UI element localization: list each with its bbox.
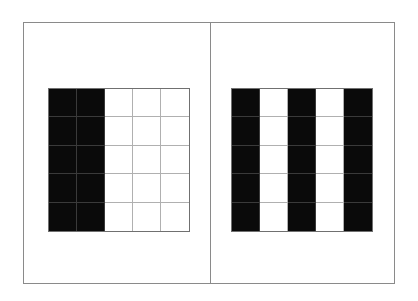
empty-cell — [316, 89, 344, 117]
empty-cell — [133, 203, 161, 231]
empty-cell — [161, 146, 189, 174]
empty-cell — [260, 89, 288, 117]
empty-cell — [316, 146, 344, 174]
filled-cell — [344, 203, 372, 231]
empty-cell — [161, 174, 189, 202]
empty-cell — [316, 203, 344, 231]
empty-cell — [260, 174, 288, 202]
filled-cell — [344, 146, 372, 174]
empty-cell — [133, 89, 161, 117]
filled-cell — [77, 117, 105, 145]
filled-cell — [344, 117, 372, 145]
filled-cell — [49, 203, 77, 231]
filled-cell — [49, 117, 77, 145]
filled-cell — [288, 203, 316, 231]
filled-cell — [232, 89, 260, 117]
filled-cell — [49, 146, 77, 174]
filled-cell — [77, 174, 105, 202]
empty-cell — [316, 117, 344, 145]
empty-cell — [133, 117, 161, 145]
panel-divider — [210, 22, 211, 284]
empty-cell — [105, 89, 133, 117]
empty-cell — [260, 146, 288, 174]
filled-cell — [232, 174, 260, 202]
empty-cell — [260, 117, 288, 145]
left-grid-panel — [48, 88, 190, 232]
filled-cell — [288, 117, 316, 145]
empty-cell — [161, 203, 189, 231]
empty-cell — [133, 146, 161, 174]
empty-cell — [105, 117, 133, 145]
filled-cell — [232, 203, 260, 231]
empty-cell — [161, 117, 189, 145]
empty-cell — [260, 203, 288, 231]
filled-cell — [288, 89, 316, 117]
empty-cell — [316, 174, 344, 202]
filled-cell — [288, 146, 316, 174]
filled-cell — [232, 117, 260, 145]
filled-cell — [77, 146, 105, 174]
empty-cell — [105, 146, 133, 174]
filled-cell — [344, 174, 372, 202]
filled-cell — [49, 174, 77, 202]
filled-cell — [77, 203, 105, 231]
filled-cell — [288, 174, 316, 202]
right-grid-panel — [231, 88, 373, 232]
filled-cell — [232, 146, 260, 174]
filled-cell — [49, 89, 77, 117]
empty-cell — [105, 203, 133, 231]
filled-cell — [344, 89, 372, 117]
filled-cell — [77, 89, 105, 117]
empty-cell — [133, 174, 161, 202]
empty-cell — [105, 174, 133, 202]
empty-cell — [161, 89, 189, 117]
